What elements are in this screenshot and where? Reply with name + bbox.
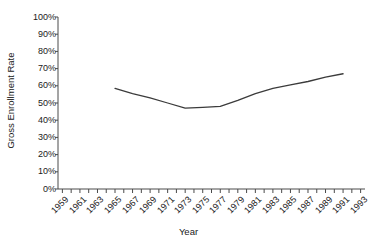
- x-axis-tick-labels: 1959196119631965196719691971197319751977…: [0, 0, 377, 245]
- chart-container: Gross Enrollment Rate 100%90%80%70%60%50…: [0, 0, 377, 245]
- x-axis-title: Year: [0, 226, 377, 237]
